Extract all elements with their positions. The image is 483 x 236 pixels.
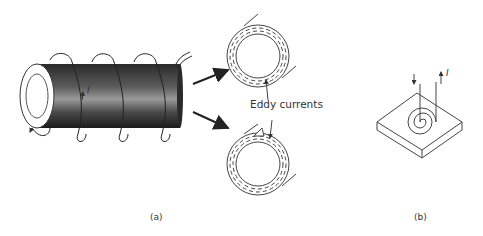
coiled-cylinder bbox=[20, 52, 192, 142]
arrow-to-bottom-ring bbox=[193, 112, 228, 128]
current-label-b: I bbox=[446, 68, 449, 78]
spiral-coil-block bbox=[377, 72, 462, 158]
current-label-a: I bbox=[87, 85, 90, 95]
arrow-to-top-ring bbox=[193, 70, 228, 84]
top-ring-cross-section bbox=[227, 14, 296, 87]
eddy-currents-label: Eddy currents bbox=[250, 98, 323, 110]
caption-a: (a) bbox=[150, 212, 163, 222]
caption-b: (b) bbox=[414, 212, 427, 222]
eddy-current-diagram bbox=[0, 0, 483, 236]
bottom-ring-cross-section bbox=[227, 124, 296, 195]
